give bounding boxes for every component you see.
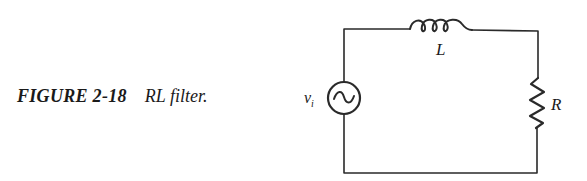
sine-wave-icon <box>334 92 354 103</box>
source-label: vi <box>304 89 314 109</box>
inductor-icon <box>410 20 472 31</box>
resistor-label: R <box>550 95 562 114</box>
left-wire-top <box>344 29 410 82</box>
inductor-label: L <box>435 40 445 59</box>
right-wire-top <box>472 30 538 78</box>
rl-filter-circuit: vi L R <box>0 0 587 181</box>
resistor-icon <box>530 78 544 128</box>
bottom-wire <box>344 114 537 173</box>
